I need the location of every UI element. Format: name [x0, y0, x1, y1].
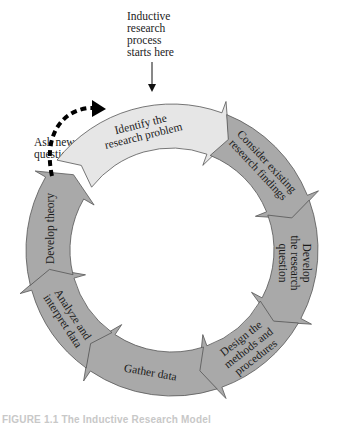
- feedback-arrowhead-icon: [92, 100, 106, 117]
- step-arrow-1: [57, 102, 229, 188]
- step-label-line: the research: [289, 235, 301, 290]
- start-pointer-arrowhead-icon: [148, 84, 156, 92]
- figure-caption: FIGURE 1.1 The Inductive Research Model: [2, 414, 211, 425]
- step-label-7: Develop theory: [44, 193, 57, 264]
- step-arrow-7: [26, 171, 94, 285]
- cycle-diagram: Identify theresearch problemConsider exi…: [0, 0, 362, 428]
- step-label-line: question: [276, 244, 289, 283]
- step-label-line: Develop theory: [44, 193, 57, 264]
